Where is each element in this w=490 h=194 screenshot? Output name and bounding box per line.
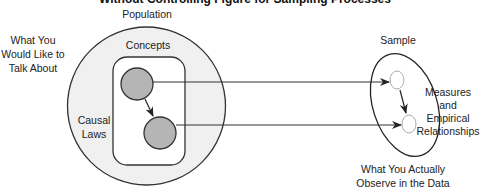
causal-laws-label-line-1: Causal [78,114,111,126]
measures-label-line-3: Empirical [426,112,469,124]
sample-ellipse [358,45,452,166]
concept-node-2 [144,117,176,149]
measures-label-line-2: and [439,99,457,111]
sample-label: Sample [380,34,416,46]
concept-node-1 [121,68,153,100]
talk-about-label-line-2: Would Like to [1,48,65,60]
measures-label-line-4: Relationships [416,125,479,137]
causal-laws-label-line-2: Laws [82,128,107,140]
observe-label-line-1: What You Actually [361,163,446,175]
diagram-canvas: Without Controlling Figure for Sampling … [0,0,490,194]
measures-label-line-1: Measures [425,86,471,98]
concepts-label: Concepts [126,39,170,51]
talk-about-label-line-3: Talk About [9,62,58,74]
measure-node-1 [390,71,404,89]
observe-label-line-2: Observe in the Data [356,177,450,189]
measure-node-2 [402,115,416,133]
diagram-svg: Without Controlling Figure for Sampling … [0,0,490,194]
clipped-title: Without Controlling Figure for Sampling … [99,0,391,6]
talk-about-label-line-1: What You [11,34,56,46]
population-label: Population [122,8,172,20]
